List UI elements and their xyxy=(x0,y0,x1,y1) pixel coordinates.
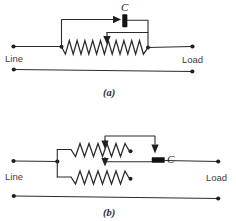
diagram-b-capacitor-label: C xyxy=(167,153,175,165)
diagram-b-line-conductor-left xyxy=(14,161,57,162)
diagram-a-group: C Line Load (a) xyxy=(5,1,203,99)
diagram-a-load-terminal-dot xyxy=(190,44,194,48)
figure-root: C Line Load (a) xyxy=(0,0,236,221)
diagram-a-line-label: Line xyxy=(5,53,23,64)
diagram-a-load-label: Load xyxy=(182,54,203,65)
diagram-b-line-terminal-dot xyxy=(11,159,15,163)
diagram-a-line-conductor-right xyxy=(148,47,192,48)
diagram-b-load-label: Load xyxy=(206,172,227,183)
diagram-a-return-line-terminal-dot xyxy=(12,67,16,71)
diagram-b-line-label: Line xyxy=(5,171,23,182)
diagram-a-arrow-into-capacitor-icon xyxy=(113,16,121,23)
diagram-b-wire-wiper-to-capacitor xyxy=(105,136,155,144)
diagram-a-capacitor-block xyxy=(123,15,128,28)
diagram-b-load-terminal-dot xyxy=(216,159,220,163)
diagram-b-caption: (b) xyxy=(103,207,115,219)
diagram-a-return-load-terminal-dot xyxy=(190,69,194,73)
schematic-svg: C Line Load (a) xyxy=(0,0,236,221)
diagram-b-lower-rheostat-zigzag xyxy=(71,171,129,184)
diagram-a-return-conductor xyxy=(14,70,192,72)
diagram-a-capacitor-label: C xyxy=(121,1,129,13)
diagram-a-caption: (a) xyxy=(103,87,115,99)
diagram-b-return-line-terminal-dot xyxy=(12,194,16,198)
diagram-b-group: C Line Load (b) xyxy=(5,136,227,219)
diagram-b-return-load-terminal-dot xyxy=(216,196,220,200)
diagram-b-upper-rheostat-zigzag xyxy=(71,144,129,157)
diagram-b-lower-rheostat-end-dot xyxy=(129,177,133,181)
diagram-b-return-conductor xyxy=(14,196,218,199)
diagram-b-arrow-into-capacitor-icon xyxy=(151,145,158,154)
diagram-b-capacitor-block xyxy=(152,158,165,163)
diagram-a-line-terminal-dot xyxy=(11,44,15,48)
diagram-a-rheostat-zigzag xyxy=(62,41,149,55)
diagram-b-upper-rheostat-end-dot xyxy=(129,149,133,153)
